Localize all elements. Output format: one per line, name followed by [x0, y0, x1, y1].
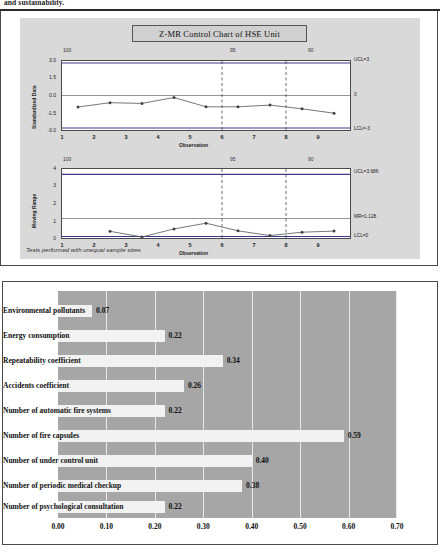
mr-chart-center-label: MR=1.128	[354, 214, 376, 219]
stage-label-95: 95	[230, 47, 236, 53]
mr-chart-xtick-5: 5	[183, 242, 197, 248]
z-chart-xtick-3: 3	[119, 134, 133, 140]
z-chart-xtick-5: 5	[183, 134, 197, 140]
z-chart-xtick-1: 1	[55, 134, 69, 140]
z-chart-ytick-neg3: -3.0	[34, 127, 56, 133]
bar-row: 0.40	[58, 455, 397, 467]
mr-chart-x-axis-label: Observation	[179, 250, 208, 256]
category-label-number-of-psychological-consultation: Number of psychological consultation	[3, 501, 55, 513]
z-chart-xtick-8: 8	[279, 134, 293, 140]
z-chart-ytick-1p5: 1.5	[34, 74, 56, 80]
bar-xtick-0.50: 0.50	[285, 522, 315, 531]
z-chart-xtick-9: 9	[311, 134, 325, 140]
bar-repeatability-coefficient	[58, 355, 223, 367]
bar-row: 0.34	[58, 355, 397, 367]
mr-chart-xtick-6: 6	[215, 242, 229, 248]
bar-value-number-of-periodic-medical-checkup: 0.38	[246, 480, 259, 492]
bar-value-energy-consumption: 0.22	[169, 330, 182, 342]
mr-chart-lcl-label: LCL=0	[354, 233, 368, 238]
category-label-number-of-fire-capsules: Number of fire capsules	[3, 430, 55, 442]
mr-chart-plot-area	[61, 168, 351, 239]
z-chart-ytick-3: 3.0	[34, 57, 56, 63]
category-label-environmental-pollutants: Environmental pollutants	[3, 305, 55, 317]
bar-xtick-0.40: 0.40	[237, 522, 267, 531]
z-chart-ucl-label: UCL=3	[354, 57, 369, 62]
running-body-text: and sustainability.	[4, 0, 204, 7]
category-label-number-of-periodic-medical-checkup: Number of periodic medical checkup	[3, 480, 55, 492]
mr-stage-label-100: 100	[63, 156, 71, 162]
bar-row: 0.26	[58, 380, 397, 392]
z-chart-plot-area	[61, 60, 351, 131]
bar-xtick-0.60: 0.60	[334, 522, 364, 531]
z-chart-series-points	[77, 96, 336, 115]
category-label-number-of-automatic-fire-systems: Number of automatic fire systems	[3, 405, 55, 417]
bar-value-number-of-psychological-consultation: 0.22	[169, 501, 182, 513]
z-chart-x-axis-label: Observation	[179, 142, 208, 148]
bar-xtick-0.20: 0.20	[140, 522, 170, 531]
stage-label-100: 100	[63, 47, 71, 53]
bar-energy-consumption	[58, 330, 165, 342]
bar-value-environmental-pollutants: 0.07	[96, 305, 109, 317]
mr-chart-ytick-3: 3	[34, 182, 56, 188]
mr-chart-ytick-0: 0	[34, 235, 56, 241]
mr-chart-xtick-4: 4	[151, 242, 165, 248]
bar-row: 0.59	[58, 430, 397, 442]
stage-label-90: 90	[308, 47, 314, 53]
bar-row: 0.07	[58, 305, 397, 317]
z-chart-ytick-neg1p5: -1.5	[34, 110, 56, 116]
bar-value-accidents-coefficient: 0.26	[188, 380, 201, 392]
bar-value-repeatability-coefficient: 0.34	[227, 355, 240, 367]
bar-row: 0.22	[58, 330, 397, 342]
z-chart-svg	[62, 61, 350, 130]
mr-chart-xtick-9: 9	[311, 242, 325, 248]
z-chart-center-label: 0	[354, 92, 357, 97]
z-chart-lcl-label: LCL=-3	[354, 126, 370, 131]
mr-stage-label-95: 95	[230, 156, 236, 162]
bar-chart-panel: 0.07 0.22 0.34 0.26 0.22 0.59	[2, 281, 438, 545]
mr-chart-xtick-7: 7	[247, 242, 261, 248]
control-chart-footnote: Tests performed with unequal sample size…	[26, 247, 141, 253]
category-label-repeatability-coefficient: Repeatability coefficient	[3, 355, 55, 367]
z-chart-xtick-2: 2	[87, 134, 101, 140]
control-chart-panel: Z-MR Control Chart of HSE Unit 100 95 90…	[0, 11, 438, 266]
category-label-number-of-under-control-unit: Number of under control unit	[3, 455, 55, 467]
bar-xtick-0.30: 0.30	[188, 522, 218, 531]
bar-number-of-fire-capsules	[58, 430, 344, 442]
z-chart-xtick-6: 6	[215, 134, 229, 140]
mr-stage-label-90: 90	[308, 156, 314, 162]
category-label-accidents-coefficient: Accidents coefficient	[3, 380, 55, 392]
mr-chart-ytick-4: 4	[34, 165, 56, 171]
mr-chart-ucl-label: UCL=3.686	[354, 169, 378, 174]
z-chart-xtick-7: 7	[247, 134, 261, 140]
bar-xtick-0.70: 0.70	[382, 522, 412, 531]
figure-page: and sustainability. Z-MR Control Chart o…	[0, 0, 440, 547]
mr-chart-ytick-1: 1	[34, 218, 56, 224]
bar-value-number-of-automatic-fire-systems: 0.22	[169, 405, 182, 417]
mr-chart-svg	[62, 169, 350, 238]
mr-chart-xtick-8: 8	[279, 242, 293, 248]
z-chart-xtick-4: 4	[151, 134, 165, 140]
bar-value-number-of-under-control-unit: 0.40	[256, 455, 269, 467]
bar-accidents-coefficient	[58, 380, 184, 392]
bar-xtick-0.00: 0.00	[43, 522, 73, 531]
control-chart-title: Z-MR Control Chart of HSE Unit	[132, 25, 307, 42]
mr-chart-ytick-2: 2	[34, 200, 56, 206]
bar-xtick-0.10: 0.10	[91, 522, 121, 531]
bar-value-number-of-fire-capsules: 0.59	[348, 430, 361, 442]
category-label-energy-consumption: Energy consumption	[3, 330, 55, 342]
z-chart-ytick-0: 0.0	[34, 92, 56, 98]
